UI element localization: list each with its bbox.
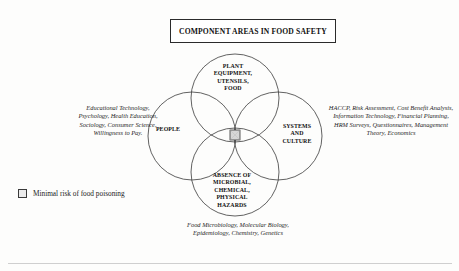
venn-label-right-line: SYSTEMS <box>272 123 322 130</box>
venn-label-top-line: FOOD <box>197 85 269 92</box>
venn-label-bottom-line: ABSENCE OF <box>195 172 269 179</box>
venn-label-top-line: EQUIPMENT, <box>197 70 269 77</box>
figure-canvas: COMPONENT AREAS IN FOOD SAFETY PLANT EQU… <box>0 0 459 271</box>
venn-label-bottom: ABSENCE OF MICROBIAL, CHEMICAL, PHYSICAL… <box>195 172 269 209</box>
legend-swatch-icon <box>18 189 27 198</box>
venn-label-bottom-line: MICROBIAL, <box>195 179 269 186</box>
legend-label: Minimal risk of food poisoning <box>33 189 125 198</box>
page-title: COMPONENT AREAS IN FOOD SAFETY <box>179 27 327 36</box>
venn-label-right-line: AND <box>272 130 322 137</box>
annotation-right: HACCP, Risk Assessment, Cost Benefit Ana… <box>328 104 454 137</box>
legend: Minimal risk of food poisoning <box>18 189 125 198</box>
venn-label-bottom-line: PHYSICAL <box>195 194 269 201</box>
venn-label-right-line: CULTURE <box>272 138 322 145</box>
venn-label-top-line: PLANT <box>197 63 269 70</box>
venn-label-bottom-line: HAZARDS <box>195 202 269 209</box>
figure-title-box: COMPONENT AREAS IN FOOD SAFETY <box>170 19 336 43</box>
venn-label-top-line: UTENSILS, <box>197 78 269 85</box>
bottom-divider <box>8 263 452 264</box>
annotation-left: Educational Technology, Psychology, Heal… <box>72 104 164 137</box>
venn-label-right: SYSTEMS AND CULTURE <box>272 123 322 145</box>
venn-label-bottom-line: CHEMICAL, <box>195 187 269 194</box>
venn-label-top: PLANT EQUIPMENT, UTENSILS, FOOD <box>197 63 269 93</box>
annotation-bottom: Food Microbiology, Molecular Biology, Ep… <box>168 221 308 238</box>
